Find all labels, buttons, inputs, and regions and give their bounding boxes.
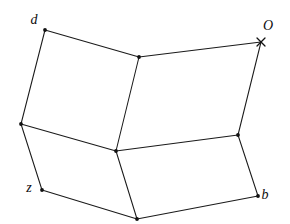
vertex-label-b: b <box>262 187 269 202</box>
geometry-diagram: dOzb <box>0 0 290 224</box>
vertex-marker-z <box>40 188 44 192</box>
vertex-marker-b <box>256 194 260 198</box>
vertex-label-z: z <box>25 180 32 195</box>
diagram-canvas: dOzb <box>0 0 290 224</box>
vertex-marker-d <box>43 28 47 32</box>
vertex-marker-center <box>114 149 118 153</box>
vertex-marker-bottom-mid <box>135 217 139 221</box>
vertex-label-d: d <box>31 12 39 27</box>
faces-layer <box>21 30 261 219</box>
vertex-label-O: O <box>263 18 273 33</box>
vertex-marker-right-mid <box>236 133 240 137</box>
vertex-marker-top-mid <box>137 55 141 59</box>
vertex-marker-left-mid <box>19 122 23 126</box>
